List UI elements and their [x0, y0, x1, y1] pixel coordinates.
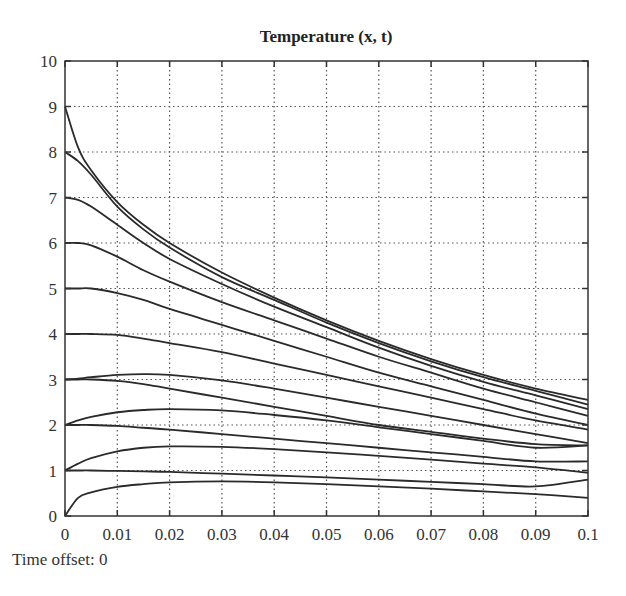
data-curves	[65, 107, 588, 517]
x-tick-label: 0.02	[155, 525, 185, 544]
y-tick-label: 1	[49, 462, 58, 481]
y-tick-label: 9	[49, 98, 58, 117]
x-tick-label: 0.06	[364, 525, 394, 544]
x-tick-label: 0.05	[312, 525, 342, 544]
y-tick-label: 0	[49, 507, 58, 526]
y-tick-label: 8	[49, 143, 58, 162]
y-tick-label: 3	[49, 371, 58, 390]
x-tick-label: 0	[61, 525, 70, 544]
y-tick-label: 10	[40, 52, 57, 71]
x-tick-label: 0.07	[416, 525, 446, 544]
x-tick-label: 0.04	[259, 525, 289, 544]
x-tick-label: 0.08	[469, 525, 499, 544]
chart-title: Temperature (x, t)	[260, 27, 393, 46]
x-tick-label: 0.1	[577, 525, 598, 544]
y-tick-label: 5	[49, 280, 58, 299]
x-tick-label: 0.01	[102, 525, 132, 544]
time-offset-label: Time offset: 0	[12, 550, 107, 570]
y-tick-label: 7	[49, 189, 58, 208]
y-tick-label: 6	[49, 234, 58, 253]
x-tick-label: 0.09	[521, 525, 551, 544]
y-tick-label: 4	[49, 325, 58, 344]
x-tick-label: 0.03	[207, 525, 237, 544]
temperature-chart: Temperature (x, t) 00.010.020.030.040.05…	[0, 0, 626, 596]
y-tick-label: 2	[49, 416, 58, 435]
